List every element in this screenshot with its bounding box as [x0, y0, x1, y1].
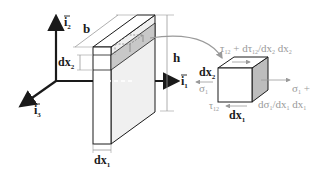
- label-i2: i2: [64, 15, 71, 31]
- label-tau12-top: τ12 + dτ12/dx2 dx2: [220, 42, 292, 55]
- beam-stress-diagram: i2 i3 i1 b h dx2 dx1 dx2 dx1 σ1 τ12 τ12 …: [0, 0, 327, 169]
- label-dx1-beam: dx1: [94, 153, 111, 169]
- label-dx2-cube: dx2: [199, 65, 216, 81]
- label-h: h: [173, 50, 181, 65]
- label-dx1-cube: dx1: [229, 108, 246, 124]
- label-i1: i1: [181, 74, 188, 90]
- label-sigma1-right-line2: dσ1/dx1 dx1: [258, 98, 306, 111]
- beam-front-face: [93, 47, 111, 144]
- label-sigma1-left: σ1: [199, 82, 208, 95]
- zoom-pointer-arrow: [150, 36, 222, 58]
- cube-front-face: [218, 68, 252, 102]
- axis-i3: [22, 81, 56, 105]
- beam: [93, 15, 155, 144]
- label-dx2-beam: dx2: [58, 55, 75, 71]
- label-sigma1-right-line1: σ1 +: [292, 82, 310, 95]
- label-b: b: [83, 21, 90, 36]
- label-i3: i3: [34, 103, 41, 119]
